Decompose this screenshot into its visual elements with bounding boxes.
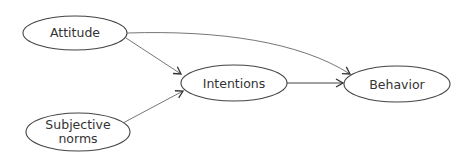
node-attitude-label: Attitude [50, 26, 100, 40]
node-behavior-label: Behavior [369, 78, 425, 92]
edge-attitude-intentions [126, 38, 181, 74]
diagram-canvas: Attitude Subjective norms Intentions Beh… [0, 0, 474, 160]
node-subjective-norms-label: Subjective norms [45, 118, 110, 146]
edge-subjective-norms-intentions [123, 91, 183, 123]
node-intentions-label: Intentions [203, 77, 266, 91]
